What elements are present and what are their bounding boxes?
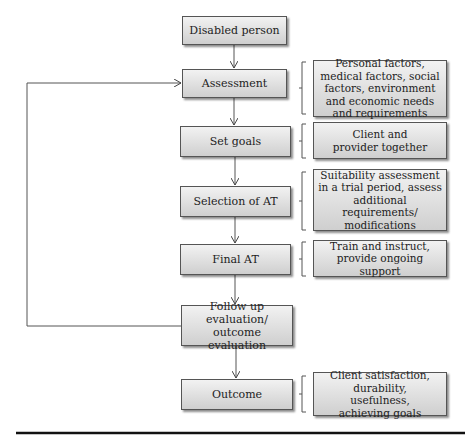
- note-text: Train and instruct, provide ongoing supp…: [318, 240, 442, 278]
- step-follow-up: Follow up evaluation/ outcome evaluation: [181, 305, 293, 346]
- note-selection-of-at: Suitability assessment in a trial period…: [313, 169, 447, 231]
- note-text: Client satisfaction, durability, usefuln…: [326, 369, 434, 419]
- step-final-at: Final AT: [180, 244, 291, 275]
- note-text: Suitability assessment in a trial period…: [318, 169, 442, 232]
- step-selection-of-at: Selection of AT: [180, 186, 291, 217]
- step-outcome: Outcome: [181, 379, 293, 410]
- step-label: Follow up evaluation/ outcome evaluation: [186, 300, 288, 352]
- note-text: Client and provider together: [332, 128, 428, 153]
- note-set-goals: Client and provider together: [313, 122, 447, 159]
- step-label: Outcome: [212, 388, 262, 401]
- note-assessment: Personal factors, medical factors, socia…: [313, 60, 447, 117]
- step-label: Disabled person: [189, 24, 279, 37]
- step-label: Final AT: [212, 253, 259, 266]
- note-final-at: Train and instruct, provide ongoing supp…: [313, 240, 447, 277]
- step-assessment: Assessment: [182, 69, 287, 98]
- note-outcome: Client satisfaction, durability, usefuln…: [313, 372, 447, 416]
- step-disabled-person: Disabled person: [182, 16, 287, 45]
- step-label: Selection of AT: [193, 195, 277, 208]
- step-label: Set goals: [210, 135, 261, 148]
- note-text: Personal factors, medical factors, socia…: [318, 57, 442, 120]
- step-label: Assessment: [202, 77, 267, 90]
- step-set-goals: Set goals: [180, 126, 291, 157]
